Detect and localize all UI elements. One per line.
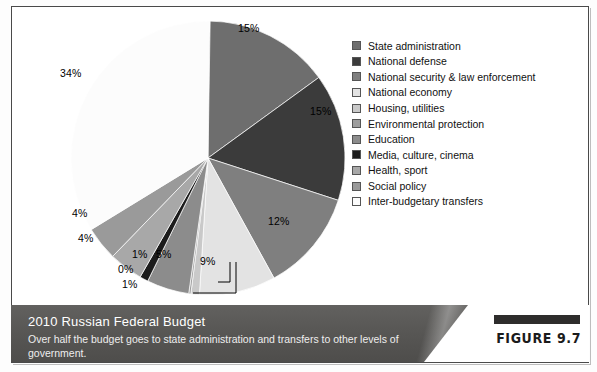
- pie-chart: 15%15%12%9%1%0%5%1%4%4%34%: [60, 10, 350, 295]
- legend-item-label: National security & law enforcement: [368, 72, 536, 83]
- legend-item-label: Health, sport: [368, 165, 428, 176]
- legend-swatch-icon: [352, 57, 361, 66]
- legend-swatch-icon: [352, 197, 361, 206]
- pie-slice-percentage: 34%: [60, 67, 81, 79]
- legend-swatch-icon: [352, 88, 361, 97]
- legend-item[interactable]: National defense: [352, 54, 582, 70]
- legend-swatch-icon: [352, 166, 361, 175]
- pie-slice-percentage: 1%: [122, 278, 137, 290]
- legend-item[interactable]: State administration: [352, 38, 582, 54]
- pie-slice-percentage: 1%: [132, 248, 147, 260]
- pie-svg: [60, 10, 350, 295]
- legend-item-label: National economy: [368, 87, 452, 98]
- chart-legend: State administrationNational defenseNati…: [352, 38, 582, 210]
- pie-slice-percentage: 4%: [72, 207, 87, 219]
- pie-slice-percentage: 9%: [200, 255, 215, 267]
- pie-slice-percentage: 12%: [268, 215, 289, 227]
- legend-item[interactable]: Education: [352, 132, 582, 148]
- legend-swatch-icon: [352, 72, 361, 81]
- legend-item-label: Social policy: [368, 181, 426, 192]
- legend-item[interactable]: Health, sport: [352, 163, 582, 179]
- figure-tag-label: FIGURE 9.7: [496, 330, 581, 346]
- pie-slice-percentage: 5%: [156, 248, 171, 260]
- legend-swatch-icon: [352, 150, 361, 159]
- legend-item[interactable]: National security & law enforcement: [352, 69, 582, 85]
- legend-swatch-icon: [352, 104, 361, 113]
- caption-bar: 2010 Russian Federal Budget Over half th…: [11, 305, 589, 362]
- legend-item-label: Inter-budgetary transfers: [368, 196, 483, 207]
- legend-item-label: Media, culture, cinema: [368, 150, 474, 161]
- legend-item[interactable]: Environmental protection: [352, 116, 582, 132]
- legend-item-label: National defense: [368, 56, 447, 67]
- legend-item-label: State administration: [368, 41, 461, 52]
- figure-tag-bar: [494, 315, 580, 324]
- pie-slice-percentage: 15%: [310, 105, 331, 117]
- legend-swatch-icon: [352, 135, 361, 144]
- legend-item[interactable]: Social policy: [352, 178, 582, 194]
- legend-item-label: Housing, utilities: [368, 103, 444, 114]
- figure-tag: FIGURE 9.7: [471, 329, 581, 347]
- pie-slice-percentage: 15%: [238, 22, 259, 34]
- legend-item[interactable]: Media, culture, cinema: [352, 147, 582, 163]
- figure-container: 15%15%12%9%1%0%5%1%4%4%34% State adminis…: [0, 0, 597, 372]
- pie-slice-percentage: 4%: [78, 232, 93, 244]
- legend-item-label: Education: [368, 134, 415, 145]
- legend-item-label: Environmental protection: [368, 119, 484, 130]
- legend-item[interactable]: National economy: [352, 85, 582, 101]
- caption-subtitle: Over half the budget goes to state admin…: [28, 333, 458, 360]
- legend-swatch-icon: [352, 182, 361, 191]
- caption-title: 2010 Russian Federal Budget: [28, 314, 205, 329]
- legend-item[interactable]: Housing, utilities: [352, 100, 582, 116]
- pie-slices: [71, 21, 345, 295]
- legend-swatch-icon: [352, 41, 361, 50]
- pie-slice-percentage: 0%: [118, 263, 133, 275]
- legend-item[interactable]: Inter-budgetary transfers: [352, 194, 582, 210]
- legend-swatch-icon: [352, 119, 361, 128]
